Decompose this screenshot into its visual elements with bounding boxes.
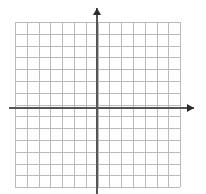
y-axis-arrowhead-icon xyxy=(93,8,101,15)
x-axis-line xyxy=(9,107,194,109)
coordinate-grid-figure xyxy=(0,0,206,194)
y-axis-line xyxy=(96,8,98,194)
x-axis-arrowhead-icon xyxy=(187,104,194,112)
grid-line-vertical xyxy=(180,22,181,187)
